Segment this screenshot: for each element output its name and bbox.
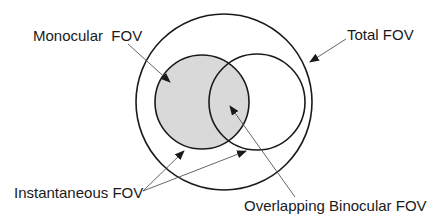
total-fov-leader-arrow [310,39,346,62]
monocular-fov-circle [155,55,249,149]
instantaneous-fov-label: Instantaneous FOV [14,184,143,201]
fov-diagram: Monocular FOV Total FOV Instantaneous FO… [0,0,433,223]
monocular-fov-label: Monocular FOV [33,27,142,44]
overlap-leader-arrow [230,106,295,197]
instantaneous-leader-arrow-left [143,151,184,191]
monocular-leader-arrow [128,44,170,82]
overlapping-binocular-fov-label: Overlapping Binocular FOV [244,197,427,214]
total-fov-label: Total FOV [347,26,414,43]
